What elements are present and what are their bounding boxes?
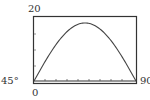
x-axis-max-label: 90 <box>140 76 150 86</box>
plot-frame <box>34 17 137 84</box>
origin-label: 0 <box>32 88 38 98</box>
data-curve <box>34 23 136 81</box>
y-axis-max-label: 20 <box>28 4 41 14</box>
angle-marker-label: 45° <box>1 76 19 86</box>
y-axis-ticks <box>34 34 36 66</box>
chart-plot <box>0 0 150 100</box>
chart-container: 20 45° 90 0 <box>0 0 150 100</box>
